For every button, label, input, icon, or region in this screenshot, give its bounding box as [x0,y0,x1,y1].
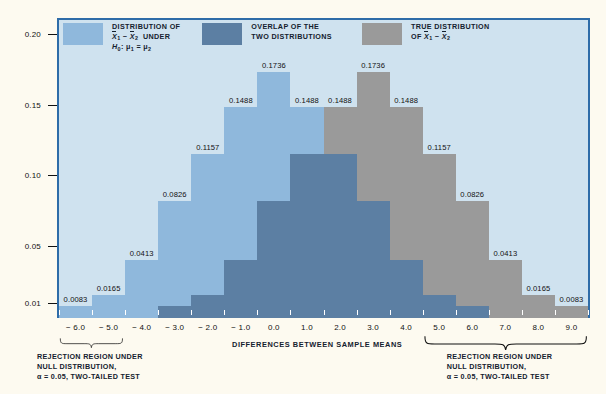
x-axis-title: DIFFERENCES BETWEEN SAMPLE MEANS [232,340,402,349]
bar-value-label: 0.1157 [416,143,462,152]
bar-value-label: 0.1736 [251,61,297,70]
x-axis-tick [588,310,589,315]
x-axis-tick [59,310,60,315]
rejection-region-caption-right: REJECTION REGION UNDER NULL DISTRIBUTION… [447,352,553,382]
bar-segment-overlap [257,201,290,318]
x-axis-tick [489,310,490,315]
bar-value-label: 0.1488 [218,96,264,105]
figure-root: 0.010.050.100.150.20 0.00830.01650.04130… [0,0,606,394]
bar-segment-overlap [390,260,423,318]
bar-value-label: 0.1488 [383,96,429,105]
x-axis-tick [555,310,556,315]
caption-line-2: NULL DISTRIBUTION, [447,362,553,372]
x-axis-tick [423,310,424,315]
x-axis-tick [522,310,523,315]
bar-segment-overlap [357,201,390,318]
bar-value-label: 0.0826 [449,190,495,199]
x-axis-tick [125,310,126,315]
rejection-region-caption-left: REJECTION REGION UNDER NULL DISTRIBUTION… [37,352,143,382]
bar-segment-overlap [456,306,489,318]
bar-segment-upper [456,201,489,318]
caption-line-1: REJECTION REGION UNDER [37,352,143,362]
x-axis-tick-label: 9.0 [551,323,591,332]
bar-segment-overlap [324,154,357,318]
x-axis-tick [92,310,93,315]
x-axis-tick [324,310,325,315]
bar-value-label: 0.1157 [185,143,231,152]
x-axis-tick [257,310,258,315]
bar-segment-overlap [191,295,224,318]
x-axis-tick [224,310,225,315]
caption-line-1: REJECTION REGION UNDER [447,352,553,362]
caption-line-3: α = 0.05, TWO-TAILED TEST [37,372,143,382]
caption-line-2: NULL DISTRIBUTION, [37,362,143,372]
caption-line-3: α = 0.05, TWO-TAILED TEST [447,372,553,382]
rejection-region-brace-left [59,335,125,351]
bar-null-distribution [59,306,92,318]
bar-value-label: 0.0083 [53,295,99,304]
bar-segment-overlap [224,260,257,318]
x-axis-tick [456,310,457,315]
bar-segment-upper [423,154,456,318]
bar-segment-upper [158,201,191,318]
rejection-region-brace-right [423,335,588,351]
bar-value-label: 0.0413 [119,249,165,258]
x-axis-tick [158,310,159,315]
bar-value-label: 0.0165 [86,284,132,293]
bar-value-label: 0.0083 [548,295,594,304]
bar-segment-upper [191,154,224,318]
bar-value-label: 0.0165 [515,284,561,293]
bar-segment-overlap [423,295,456,318]
bar-segment-overlap [158,306,191,318]
bar-value-label: 0.0413 [482,249,528,258]
x-axis-tick [357,310,358,315]
bar-value-label: 0.1488 [317,96,363,105]
x-axis-tick [191,310,192,315]
bar-value-label: 0.0826 [152,190,198,199]
x-axis-tick [390,310,391,315]
bar-value-label: 0.1736 [350,61,396,70]
bar-true-distribution [555,306,588,318]
bar-segment-overlap [290,154,323,318]
x-axis-tick [290,310,291,315]
